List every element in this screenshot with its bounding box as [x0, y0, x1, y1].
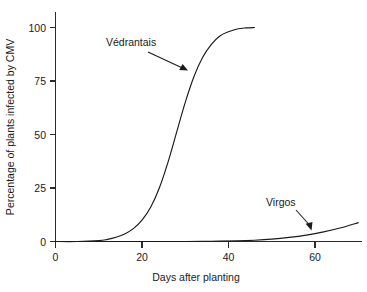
- y-axis-ticks: [50, 28, 56, 242]
- x-axis-title: Days after planting: [152, 271, 240, 283]
- y-tick-label-75: 75: [34, 75, 46, 87]
- x-tick-label-60: 60: [309, 251, 321, 263]
- series-label-vedrantais: Védrantais: [106, 36, 156, 48]
- series-label-virgos: Virgos: [266, 196, 296, 208]
- series-line-virgos: [56, 223, 359, 242]
- leader-line-vedrantais: [148, 52, 184, 69]
- y-axis-title: Percentage of plants infected by CMV: [4, 39, 16, 215]
- y-tick-label-25: 25: [34, 182, 46, 194]
- annotation-vedrantais: Védrantais: [106, 36, 188, 71]
- chart-canvas: 0 25 50 75 100 0 20 40 60 Days after pla…: [0, 0, 367, 292]
- series-line-vedrantais: [56, 28, 255, 242]
- leader-line-virgos: [296, 210, 310, 225]
- x-axis-ticks: [56, 242, 316, 249]
- x-tick-label-20: 20: [136, 251, 148, 263]
- y-tick-label-100: 100: [28, 22, 46, 34]
- arrow-head-virgos: [306, 222, 313, 231]
- y-tick-label-0: 0: [40, 236, 46, 248]
- y-tick-label-50: 50: [34, 129, 46, 141]
- chart-figure: 0 25 50 75 100 0 20 40 60 Days after pla…: [0, 0, 367, 292]
- x-tick-label-40: 40: [223, 251, 235, 263]
- x-tick-label-0: 0: [53, 251, 59, 263]
- annotation-virgos: Virgos: [266, 196, 313, 231]
